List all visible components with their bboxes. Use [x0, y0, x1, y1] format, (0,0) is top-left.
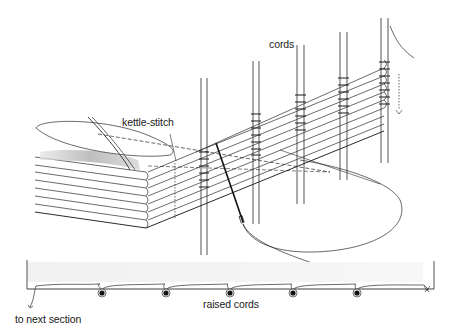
label-cords: cords	[269, 39, 294, 50]
section-folds	[146, 172, 148, 228]
thread-tail-top	[390, 26, 414, 58]
open-section	[36, 117, 380, 184]
section-strip	[27, 262, 423, 282]
diagram-canvas	[0, 0, 451, 330]
label-kettle-stitch: kettle-stitch	[122, 117, 174, 128]
cord-stitches	[199, 62, 390, 187]
section-lines-front	[35, 157, 146, 228]
bookbinding-diagram: cords kettle-stitch raised cords to next…	[0, 0, 451, 330]
book-block	[35, 26, 414, 228]
thread-end	[243, 224, 315, 264]
label-to-next-section: to next section	[15, 314, 81, 325]
cord-3	[297, 45, 304, 204]
thread-loop-right	[243, 160, 402, 252]
label-raised-cords: raised cords	[203, 299, 259, 310]
raised-cord-dots	[98, 289, 361, 297]
section-shadow	[40, 150, 140, 170]
right-end-folds	[384, 60, 387, 108]
